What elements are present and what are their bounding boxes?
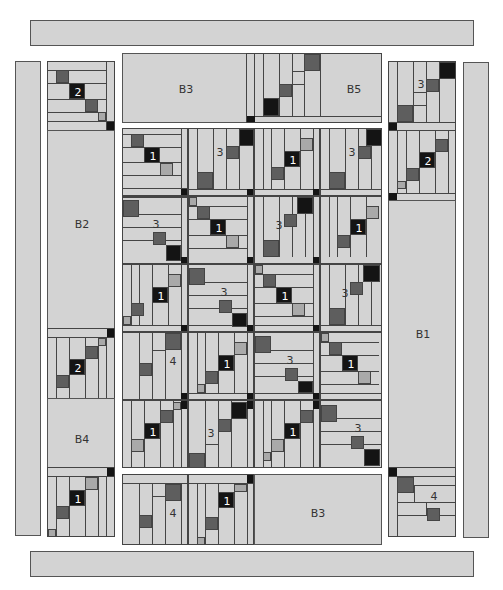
light-square <box>292 303 305 316</box>
bottom-block-b: 1 <box>188 474 254 545</box>
black-square <box>166 245 181 261</box>
dark-square <box>397 105 413 122</box>
center-block-r2c2: 1 <box>188 196 254 264</box>
dark-square <box>165 333 181 350</box>
light-square <box>123 316 131 325</box>
dark-square <box>197 172 213 189</box>
black-square <box>263 98 279 116</box>
dark-square <box>406 168 419 181</box>
center-block-r2c4: 1 <box>320 196 382 264</box>
block-number: 1 <box>348 358 355 371</box>
block-number: 1 <box>224 495 231 508</box>
block-number: 3 <box>287 354 294 367</box>
dark-square <box>153 232 166 245</box>
block-number: 3 <box>153 218 160 231</box>
border-b2: B2 <box>47 130 115 329</box>
dark-square <box>226 146 239 159</box>
light-square <box>255 265 263 274</box>
center-block-r1c2: 3 <box>188 128 254 196</box>
light-square <box>98 112 106 121</box>
block-number: 1 <box>282 290 289 303</box>
border-b5-pieced: B5 <box>246 53 382 123</box>
border-b1: B1 <box>388 200 456 468</box>
dark-square <box>300 410 313 423</box>
dark-square <box>205 517 218 530</box>
center-block-r3c4: 3 <box>320 264 382 332</box>
border-b3-top-label: B3 <box>179 83 194 96</box>
dark-square <box>139 515 152 528</box>
center-block-r5c2: 3 <box>188 400 254 468</box>
black-square: 1 <box>144 423 160 439</box>
light-square <box>48 529 56 537</box>
side-block-left-bottom: 1 <box>47 467 115 537</box>
side-block-right-bottom: 4 <box>388 467 456 537</box>
block-number: 3 <box>221 286 228 299</box>
side-block-right-second: 2 <box>388 130 456 201</box>
center-block-r3c1: 1 <box>122 264 188 332</box>
black-square: 1 <box>276 287 292 303</box>
black-square: 2 <box>69 83 85 99</box>
block-number: 3 <box>276 219 283 232</box>
light-square <box>85 477 98 490</box>
light-square <box>98 338 106 346</box>
border-b2-label: B2 <box>75 218 90 231</box>
light-square <box>358 371 371 384</box>
dark-square <box>189 453 205 468</box>
left-outer-border <box>15 61 41 536</box>
center-block-r5c3: 1 <box>254 400 320 468</box>
center-block-r4c3: 3 <box>254 332 320 400</box>
black-square: 1 <box>218 492 234 508</box>
dark-square <box>329 172 345 189</box>
black-square: 2 <box>419 152 435 168</box>
light-square <box>226 235 239 248</box>
light-square <box>131 439 144 452</box>
dark-square <box>329 308 345 325</box>
center-block-r2c1: 3 <box>122 196 188 264</box>
dark-square <box>85 346 98 359</box>
dark-square <box>426 79 439 92</box>
right-outer-border <box>463 62 489 538</box>
border-b5-label: B5 <box>347 83 362 96</box>
black-square: 1 <box>69 490 85 506</box>
dark-square <box>56 375 69 388</box>
light-square <box>189 197 197 206</box>
center-block-r1c1: 1 <box>122 128 188 196</box>
block-number: 4 <box>431 490 438 503</box>
block-number: 1 <box>75 493 82 506</box>
black-square: 1 <box>350 219 366 235</box>
black-square <box>239 129 254 146</box>
black-square <box>366 129 382 146</box>
black-square: 1 <box>144 147 160 163</box>
block-number: 1 <box>150 426 157 439</box>
black-square <box>439 62 456 79</box>
dark-square <box>397 477 414 493</box>
block-number: 2 <box>75 362 82 375</box>
center-block-r1c4: 3 <box>320 128 382 196</box>
black-square <box>298 381 313 393</box>
block-number: 1 <box>356 222 363 235</box>
black-square: 1 <box>342 355 358 371</box>
dark-square <box>218 419 231 432</box>
block-number: 3 <box>217 146 224 159</box>
block-number: 1 <box>224 358 231 371</box>
dark-square <box>197 206 210 219</box>
light-square <box>271 439 284 452</box>
block-number: 4 <box>170 507 177 520</box>
dark-square <box>160 410 173 423</box>
center-block-r3c3: 1 <box>254 264 320 332</box>
center-block-r4c2: 1 <box>188 332 254 400</box>
black-square: 2 <box>69 359 85 375</box>
block-number: 1 <box>290 426 297 439</box>
dark-square <box>205 371 218 384</box>
dark-square <box>285 368 298 381</box>
light-square <box>168 274 181 287</box>
dark-square <box>131 134 144 147</box>
black-square <box>363 265 380 282</box>
center-block-r5c1: 1 <box>122 400 188 468</box>
dark-square <box>351 436 364 449</box>
block-number: 4 <box>170 355 177 368</box>
block-number: 3 <box>208 427 215 440</box>
dark-square <box>255 336 271 353</box>
light-square <box>366 206 379 219</box>
center-block-r3c2: 3 <box>188 264 254 332</box>
